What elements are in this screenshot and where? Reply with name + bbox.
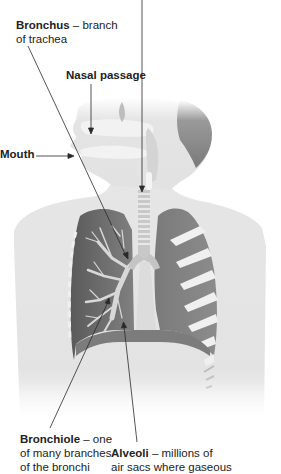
bronchus-desc-2: of trachea <box>16 33 67 45</box>
bronchiole-desc-2: of many branches <box>20 447 111 459</box>
alveoli-desc-2: air sacs where gaseous <box>111 461 232 473</box>
mouth-term: Mouth <box>0 148 34 160</box>
label-alveoli: Alveoli – millions of air sacs where gas… <box>111 446 281 474</box>
bronchiole-desc-1: – one <box>80 433 112 445</box>
bronchus-desc-1: – branch <box>70 19 118 31</box>
bronchus-term: Bronchus <box>16 19 70 31</box>
label-nasal-passage: Nasal passage <box>66 68 176 82</box>
bronchiole-desc-3: of the bronchi <box>20 461 90 473</box>
nasal-passage-term: Nasal passage <box>66 69 146 81</box>
waist-fade <box>0 370 280 430</box>
label-bronchus: Bronchus – branch of trachea <box>16 18 156 46</box>
label-mouth: Mouth <box>0 147 34 161</box>
alveoli-desc-1: – millions of <box>149 447 213 459</box>
bronchiole-term: Bronchiole <box>20 433 80 445</box>
alveoli-term: Alveoli <box>111 447 149 459</box>
epiglottis <box>146 172 152 190</box>
